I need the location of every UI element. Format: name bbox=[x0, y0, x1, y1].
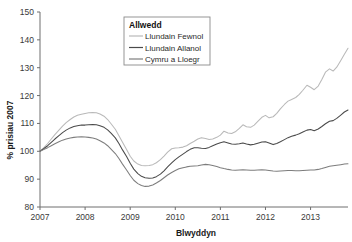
x-axis-title: Blwyddyn bbox=[176, 228, 216, 238]
y-axis-title: % prisiau 2007 bbox=[5, 100, 15, 159]
y-tick-label: 100 bbox=[20, 146, 34, 156]
x-tick-label: 2011 bbox=[211, 212, 230, 222]
x-tick-label: 2012 bbox=[256, 212, 275, 222]
legend-label-3: Cymru a Lloegr bbox=[145, 55, 200, 64]
legend-label-1: Llundain Fewnol bbox=[145, 32, 203, 41]
x-tick-label: 2007 bbox=[31, 212, 50, 222]
y-tick-label: 130 bbox=[20, 63, 34, 73]
y-tick-label: 150 bbox=[20, 7, 34, 17]
x-tick-label: 2008 bbox=[76, 212, 95, 222]
y-tick-label: 80 bbox=[25, 202, 35, 212]
y-axis: 8090100110120130140150 bbox=[20, 7, 40, 212]
line-chart: 8090100110120130140150 20072008200920102… bbox=[0, 0, 352, 242]
legend-label-2: Llundain Allanol bbox=[145, 44, 201, 53]
series-line-cymru-a-lloegr bbox=[40, 137, 348, 187]
chart-legend: AllweddLlundain FewnolLlundain AllanolCy… bbox=[124, 17, 210, 65]
x-tick-label: 2010 bbox=[166, 212, 185, 222]
series-line-llundain-allanol bbox=[40, 110, 348, 178]
y-tick-label: 90 bbox=[25, 174, 35, 184]
legend-title: Allwedd bbox=[129, 20, 162, 30]
y-tick-label: 140 bbox=[20, 35, 34, 45]
x-axis: 2007200820092010201120122013 bbox=[31, 207, 348, 222]
chart-container: 8090100110120130140150 20072008200920102… bbox=[0, 0, 352, 242]
x-tick-label: 2009 bbox=[121, 212, 140, 222]
y-tick-label: 120 bbox=[20, 91, 34, 101]
data-series-group bbox=[40, 48, 348, 186]
x-tick-label: 2013 bbox=[301, 212, 320, 222]
y-tick-label: 110 bbox=[20, 118, 34, 128]
